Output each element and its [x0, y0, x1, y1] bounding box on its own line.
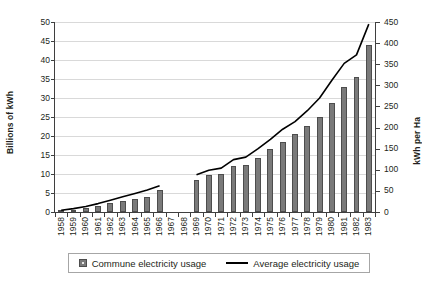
y-tick-left-50: 50: [26, 18, 50, 27]
y-tickmark-left-45: [51, 41, 55, 42]
y-tick-left-0: 0: [26, 208, 50, 217]
y-tick-right-200: 200: [384, 123, 412, 132]
x-tickmark-1977: [289, 213, 290, 217]
x-tickmark-1983: [363, 213, 364, 217]
x-tickmark-1982: [350, 213, 351, 217]
y-tick-left-15: 15: [26, 151, 50, 160]
y-axis-right-title: kWh per Ha: [412, 117, 422, 165]
x-tick-1967: 1967: [167, 217, 176, 236]
y-tickmark-left-5: [51, 193, 55, 194]
x-tick-1962: 1962: [106, 217, 115, 236]
x-tickmark-1980: [326, 213, 327, 217]
y-axis-left-title-wrap: Billions of kWh: [5, 62, 15, 182]
x-tick-1976: 1976: [278, 217, 287, 236]
x-tick-1978: 1978: [303, 217, 312, 236]
x-tickmark-1969: [190, 213, 191, 217]
y-tick-right-0: 0: [384, 208, 412, 217]
legend-label-commune: Commune electricity usage: [92, 258, 207, 269]
y-tickmark-right-450: [376, 22, 380, 23]
x-tickmark-1966: [153, 213, 154, 217]
x-tick-1971: 1971: [217, 217, 226, 236]
legend-item-average-electricity-usage[interactable]: Average electricity usage: [226, 258, 359, 269]
x-tick-1961: 1961: [94, 217, 103, 236]
x-tickmark-1979: [313, 213, 314, 217]
y-tick-right-100: 100: [384, 165, 412, 174]
chart-container: Billions of kWh kWh per Ha 0510152025303…: [0, 0, 433, 285]
x-tickmark-1960: [80, 213, 81, 217]
x-tick-1972: 1972: [229, 217, 238, 236]
x-tick-1959: 1959: [69, 217, 78, 236]
x-tick-1981: 1981: [340, 217, 349, 236]
x-tick-1975: 1975: [266, 217, 275, 236]
y-tickmark-left-40: [51, 60, 55, 61]
y-tick-left-35: 35: [26, 75, 50, 84]
plot-area: [55, 22, 375, 212]
y-tick-left-5: 5: [26, 189, 50, 198]
y-tick-left-10: 10: [26, 170, 50, 179]
x-tickmark-1981: [338, 213, 339, 217]
x-tick-1968: 1968: [180, 217, 189, 236]
x-tickmark-1962: [104, 213, 105, 217]
line-series-average-electricity-usage: [55, 22, 375, 212]
y-tickmark-left-15: [51, 155, 55, 156]
x-tickmark-1968: [178, 213, 179, 217]
x-tick-1965: 1965: [143, 217, 152, 236]
y-tickmark-left-25: [51, 117, 55, 118]
x-tickmark-1970: [203, 213, 204, 217]
y-tickmark-right-300: [376, 85, 380, 86]
x-tick-1970: 1970: [204, 217, 213, 236]
x-tickmark-1972: [227, 213, 228, 217]
y-tickmark-right-350: [376, 64, 380, 65]
x-tickmark-end: [375, 213, 376, 217]
x-tickmark-1976: [277, 213, 278, 217]
chart-legend: Commune electricity usage Average electr…: [68, 253, 370, 273]
y-tickmark-left-30: [51, 98, 55, 99]
y-tick-right-250: 250: [384, 102, 412, 111]
x-tick-1974: 1974: [254, 217, 263, 236]
y-tickmark-left-50: [51, 22, 55, 23]
x-tickmark-1974: [252, 213, 253, 217]
x-tickmark-1959: [67, 213, 68, 217]
x-tick-1982: 1982: [352, 217, 361, 236]
x-tick-1969: 1969: [192, 217, 201, 236]
y-tickmark-left-20: [51, 136, 55, 137]
y-tickmark-left-35: [51, 79, 55, 80]
x-tickmark-1958: [55, 213, 56, 217]
y-tickmark-right-400: [376, 43, 380, 44]
y-tick-right-450: 450: [384, 18, 412, 27]
line-swatch-icon: [226, 262, 248, 264]
y-tickmark-right-150: [376, 149, 380, 150]
x-tickmark-1964: [129, 213, 130, 217]
y-tick-right-400: 400: [384, 39, 412, 48]
legend-label-average: Average electricity usage: [253, 258, 359, 269]
y-tick-right-150: 150: [384, 144, 412, 153]
x-tick-1980: 1980: [327, 217, 336, 236]
x-tick-1960: 1960: [81, 217, 90, 236]
y-tick-right-350: 350: [384, 60, 412, 69]
x-tickmark-1971: [215, 213, 216, 217]
x-tickmark-1963: [117, 213, 118, 217]
x-tick-1958: 1958: [57, 217, 66, 236]
x-tickmark-1978: [301, 213, 302, 217]
legend-item-commune-electricity-usage[interactable]: Commune electricity usage: [79, 258, 207, 269]
x-tickmark-1967: [166, 213, 167, 217]
x-tick-1983: 1983: [364, 217, 373, 236]
y-tick-left-30: 30: [26, 94, 50, 103]
x-tickmark-1973: [240, 213, 241, 217]
y-axis-right-line: [375, 22, 376, 213]
y-axis-right-title-wrap: kWh per Ha: [412, 86, 422, 196]
y-tick-left-40: 40: [26, 56, 50, 65]
y-tickmark-right-100: [376, 170, 380, 171]
y-tickmark-left-10: [51, 174, 55, 175]
x-tick-1964: 1964: [131, 217, 140, 236]
y-tickmark-right-0: [376, 212, 380, 213]
y-tickmark-right-50: [376, 191, 380, 192]
y-axis-left-title: Billions of kWh: [5, 91, 15, 154]
y-tickmark-right-250: [376, 106, 380, 107]
x-tick-1977: 1977: [291, 217, 300, 236]
y-tick-right-50: 50: [384, 186, 412, 195]
x-tick-1966: 1966: [155, 217, 164, 236]
x-tick-1963: 1963: [118, 217, 127, 236]
x-tickmark-1965: [141, 213, 142, 217]
bar-swatch-icon: [79, 259, 87, 267]
